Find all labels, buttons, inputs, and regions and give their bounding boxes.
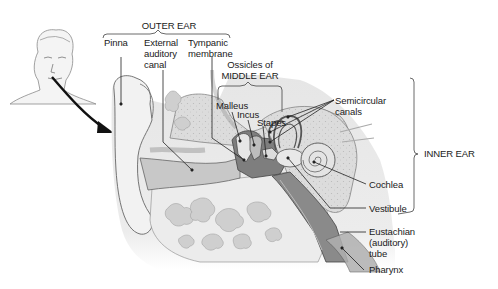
label-pinna: Pinna xyxy=(104,37,128,48)
label-vestibule: Vestibule xyxy=(369,203,407,214)
head-figure xyxy=(10,30,96,104)
label-semicircular-canals: Semicircular canals xyxy=(335,95,386,117)
label-eustachian-tube: Eustachian (auditory) tube xyxy=(369,226,415,259)
ear-anatomy-diagram: OUTER EAR Ossicles of MIDDLE EAR INNER E… xyxy=(0,0,498,289)
group-label-inner-ear: INNER EAR xyxy=(424,148,475,159)
cochlea-shape xyxy=(301,143,335,177)
group-label-outer-ear: OUTER EAR xyxy=(139,20,199,31)
group-label-middle-ear: Ossicles of MIDDLE EAR xyxy=(215,59,285,81)
label-pharynx: Pharynx xyxy=(369,264,403,275)
label-cochlea: Cochlea xyxy=(369,179,403,190)
label-external-auditory-canal: External auditory canal xyxy=(144,37,178,70)
ear-illustration xyxy=(0,0,498,289)
label-incus: Incus xyxy=(237,109,259,120)
label-tympanic-membrane: Tympanic membrane xyxy=(188,37,233,59)
vestibule-shape xyxy=(276,149,304,167)
label-stapes: Stapes xyxy=(257,117,286,128)
inner-ear-bracket xyxy=(398,78,418,214)
